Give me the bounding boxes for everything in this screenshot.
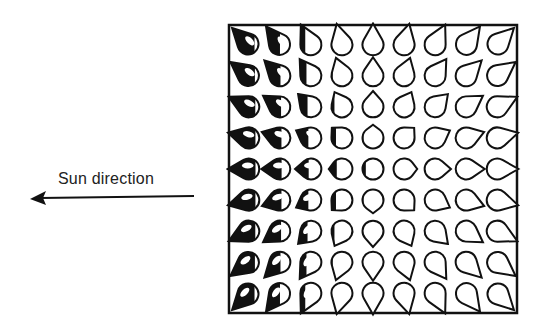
- teardrop-cell: [390, 217, 421, 251]
- teardrop-cell: [353, 55, 384, 96]
- teardrop-cell: [421, 121, 455, 152]
- teardrop-cell: [353, 242, 384, 283]
- teardrop-cell: [425, 159, 451, 180]
- teardrop-cell: [390, 87, 421, 121]
- teardrop-cell: [421, 22, 455, 59]
- teardrop-cell: [483, 279, 521, 317]
- teardrop-cell: [483, 248, 521, 285]
- teardrop-cell: [226, 146, 259, 192]
- teardrop-cell: [452, 22, 489, 59]
- teardrop-cell: [456, 159, 485, 180]
- teardrop-cell: [420, 216, 455, 251]
- teardrop-grid: [226, 22, 521, 317]
- teardrop-cell: [259, 149, 290, 190]
- teardrop-cell: [452, 217, 489, 251]
- teardrop-cell: [485, 123, 521, 151]
- teardrop-cell: [391, 55, 420, 90]
- teardrop-cell: [394, 159, 418, 180]
- teardrop-cell: [350, 22, 384, 68]
- teardrop-cell: [391, 281, 419, 317]
- teardrop-cell: [451, 53, 489, 91]
- teardrop-cell: [453, 187, 488, 216]
- teardrop-cell: [453, 122, 488, 151]
- sun-direction-label: Sun direction: [58, 170, 154, 188]
- teardrop-cell: [421, 186, 455, 217]
- teardrop-cell: [421, 53, 455, 90]
- teardrop-cell: [389, 120, 421, 152]
- teardrop-cell: [358, 185, 384, 215]
- teardrop-cell: [483, 217, 521, 251]
- teardrop-cell: [293, 151, 321, 187]
- teardrop-cell: [483, 87, 521, 121]
- arrow-left-icon: [28, 188, 198, 208]
- teardrop-cell: [361, 157, 384, 182]
- teardrop-cell: [389, 185, 421, 217]
- teardrop-cell: [327, 154, 353, 184]
- teardrop-cell: [420, 87, 455, 122]
- teardrop-cell: [391, 22, 419, 57]
- teardrop-cell: [485, 187, 521, 215]
- teardrop-cell: [452, 87, 489, 121]
- teardrop-cell: [421, 279, 455, 317]
- teardrop-cell: [483, 54, 521, 91]
- teardrop-cell: [358, 123, 384, 153]
- teardrop-cell: [451, 247, 489, 285]
- teardrop-cell: [355, 213, 383, 249]
- teardrop-cell: [483, 22, 521, 59]
- teardrop-cell: [391, 249, 420, 284]
- teardrop-cell: [350, 270, 384, 316]
- teardrop-cell: [452, 279, 489, 317]
- teardrop-cell: [355, 89, 383, 125]
- teardrop-cell: [421, 248, 455, 285]
- teardrop-cell: [487, 159, 519, 180]
